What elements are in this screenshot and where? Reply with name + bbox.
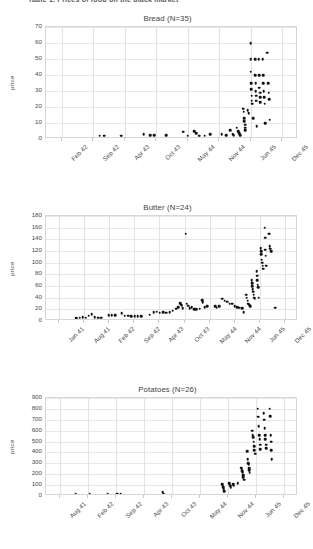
x-tick-mark [227,495,228,498]
data-point [186,134,189,137]
x-tick-label: Apr 43 [152,500,170,518]
data-point [268,118,271,121]
data-point [262,90,265,93]
data-point [88,493,91,495]
gridline-vertical [285,216,286,319]
gridline-horizontal [46,27,296,28]
data-point [153,134,156,137]
data-point [256,279,259,282]
data-point [162,493,165,495]
data-point [265,444,268,447]
x-tick-mark [155,138,156,141]
x-tick-label: Feb 42 [117,325,136,344]
data-point [258,438,261,441]
data-point [270,440,273,443]
data-point [182,130,185,133]
x-tick-mark [255,495,256,498]
data-point [209,133,212,136]
x-tick-mark [87,495,88,498]
data-point [254,452,257,455]
x-tick-mark [124,138,125,141]
data-point [111,314,114,317]
y-tick-label: 120 [32,247,42,253]
x-tick-mark [108,320,109,323]
gridline-vertical [88,398,89,494]
data-point [257,415,260,418]
chart-block-bread: Bread (N=35) 010203040506070priceFeb 42S… [0,14,313,174]
data-point [255,270,258,273]
gridline-vertical [256,398,257,494]
data-point [264,249,267,252]
y-axis-label-butter: price [8,261,15,275]
data-point [251,102,254,105]
data-point [268,98,271,101]
x-tick-label: Apr 43 [132,143,150,161]
data-point [172,309,175,312]
data-point [221,133,224,136]
gridline-vertical [60,398,61,494]
data-point [244,123,247,126]
x-tick-mark [283,495,284,498]
y-tick-label: 400 [32,448,42,454]
gridline-vertical [144,398,145,494]
data-point [100,316,103,319]
y-axis-ticks-butter: 020406080100120140160180 [14,215,42,320]
x-tick-label: Jun 45 [258,143,277,162]
x-tick-mark [284,320,285,323]
x-tick-mark [115,495,116,498]
data-point [261,58,264,61]
data-point [246,109,249,112]
gridline-horizontal [46,452,296,453]
data-point [266,51,269,54]
data-point [259,448,262,451]
data-point [253,298,256,301]
data-point [265,264,268,267]
data-point [251,99,254,102]
data-point [250,70,253,73]
gridline-vertical [59,216,60,319]
data-point [243,478,246,481]
data-point [236,126,239,129]
gridline-vertical [109,216,110,319]
data-point [239,134,242,137]
data-point [259,96,262,99]
data-point [257,296,260,299]
x-tick-label: Sep 42 [142,325,161,344]
data-point [225,134,228,137]
data-point [268,408,271,411]
gridline-horizontal [46,43,296,44]
data-point [262,412,265,415]
gridline-vertical [172,398,173,494]
data-point [120,134,123,137]
data-point [198,307,201,310]
x-tick-label: May 44 [196,143,216,163]
data-point [269,415,272,418]
data-point [162,311,165,314]
data-point [263,96,266,99]
x-tick-label: Nov 44 [227,143,246,162]
y-tick-label: 600 [32,427,42,433]
data-point [258,434,261,437]
data-point [256,274,259,277]
x-tick-label: Dec 45 [292,500,311,519]
x-tick-mark [199,495,200,498]
data-point [258,74,261,77]
data-point [124,314,127,317]
chart-title-potatoes: Potatoes (N=26) [0,385,313,394]
y-tick-label: 0 [39,317,42,323]
y-tick-label: 60 [35,39,42,45]
gridline-vertical [93,27,94,137]
y-tick-label: 140 [32,235,42,241]
data-point [252,117,255,120]
data-point [264,434,267,437]
figure-page: Table 1. Prices of food on the black mar… [0,0,313,549]
data-point [114,314,117,317]
plot-area-butter [45,215,297,320]
data-point [263,102,266,105]
data-point [265,447,268,450]
x-tick-label: Nov 44 [243,325,262,344]
data-point [274,306,277,309]
gridline-vertical [156,27,157,137]
data-point [246,458,249,461]
data-point [93,316,96,319]
